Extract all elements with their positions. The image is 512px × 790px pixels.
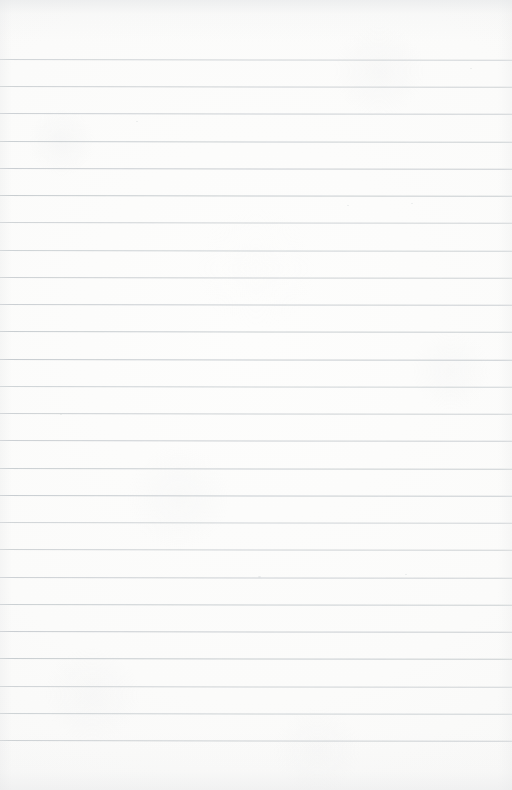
paper-background [0,0,512,790]
scanned-page [0,0,512,790]
